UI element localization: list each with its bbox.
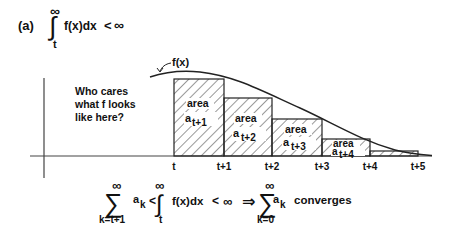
- svg-text:a: a: [273, 193, 280, 205]
- svg-text:t+2: t+2: [265, 161, 280, 172]
- conclusion-formula: ∞ ∑ k=t+1 a k < ∞ ∫ t f(x)dx < ∞ ⇒ ∞ ∑ k…: [99, 178, 352, 225]
- svg-text:<: <: [149, 194, 156, 208]
- svg-text:t+3: t+3: [291, 141, 306, 152]
- svg-text:t+4: t+4: [339, 149, 354, 160]
- svg-text:<: <: [212, 194, 219, 208]
- less-than: <: [104, 18, 112, 33]
- svg-text:like here?: like here?: [75, 111, 124, 123]
- x-tick-labels: t t+1 t+2 t+3 t+4 t+5: [172, 161, 425, 172]
- svg-text:t+2: t+2: [241, 132, 256, 143]
- svg-text:t+5: t+5: [411, 161, 426, 172]
- svg-text:t: t: [172, 161, 176, 172]
- integral-test-diagram: (a) ∞ ∫ t f(x)dx < ∞ f(x) Who cares what…: [0, 0, 455, 233]
- svg-text:area: area: [187, 97, 209, 109]
- part-label: (a): [18, 18, 34, 33]
- integrand: f(x)dx: [64, 19, 97, 33]
- infinity: ∞: [114, 17, 124, 33]
- sum1-lower: k=t+1: [99, 214, 126, 225]
- svg-text:f(x)dx: f(x)dx: [172, 195, 204, 207]
- header-formula: (a) ∞ ∫ t f(x)dx < ∞: [18, 3, 124, 50]
- svg-text:t+1: t+1: [192, 117, 207, 128]
- area-label-t2: area a t+2: [232, 112, 266, 143]
- implies-arrow-icon: ⇒: [242, 193, 255, 210]
- svg-text:t+3: t+3: [315, 161, 330, 172]
- curve-label: f(x): [172, 56, 189, 68]
- area-label-t3: area a t+3: [282, 123, 316, 152]
- integral-lower-limit: t: [53, 38, 57, 50]
- svg-text:t+4: t+4: [363, 161, 378, 172]
- area-label-t1: area a t+1: [184, 97, 218, 128]
- svg-text:a: a: [332, 146, 338, 157]
- svg-text:area: area: [235, 112, 257, 124]
- sum2-lower: k=0: [257, 214, 274, 225]
- svg-text:Who cares: Who cares: [75, 85, 128, 97]
- svg-text:∞: ∞: [223, 194, 232, 209]
- side-note: Who cares what f looks like here?: [74, 85, 136, 123]
- svg-text:t+1: t+1: [217, 161, 232, 172]
- svg-text:k: k: [140, 199, 146, 210]
- svg-text:a: a: [185, 112, 192, 124]
- svg-text:a: a: [283, 136, 290, 148]
- svg-text:what f looks: what f looks: [74, 98, 136, 110]
- area-label-t4: area a t+4: [331, 138, 365, 160]
- svg-text:area: area: [285, 123, 307, 135]
- svg-text:k: k: [280, 199, 286, 210]
- svg-text:a: a: [133, 193, 140, 205]
- verdict: converges: [294, 194, 352, 206]
- svg-text:a: a: [233, 127, 240, 139]
